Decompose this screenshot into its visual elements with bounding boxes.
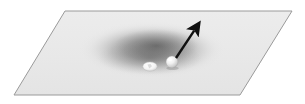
figure-container: Gravity well on a deformed plane with or… [0, 0, 305, 104]
gravity-well-figure: Gravity well on a deformed plane with or… [0, 0, 305, 104]
white-sphere-highlight [168, 58, 172, 61]
irregular-white-object [143, 62, 157, 71]
